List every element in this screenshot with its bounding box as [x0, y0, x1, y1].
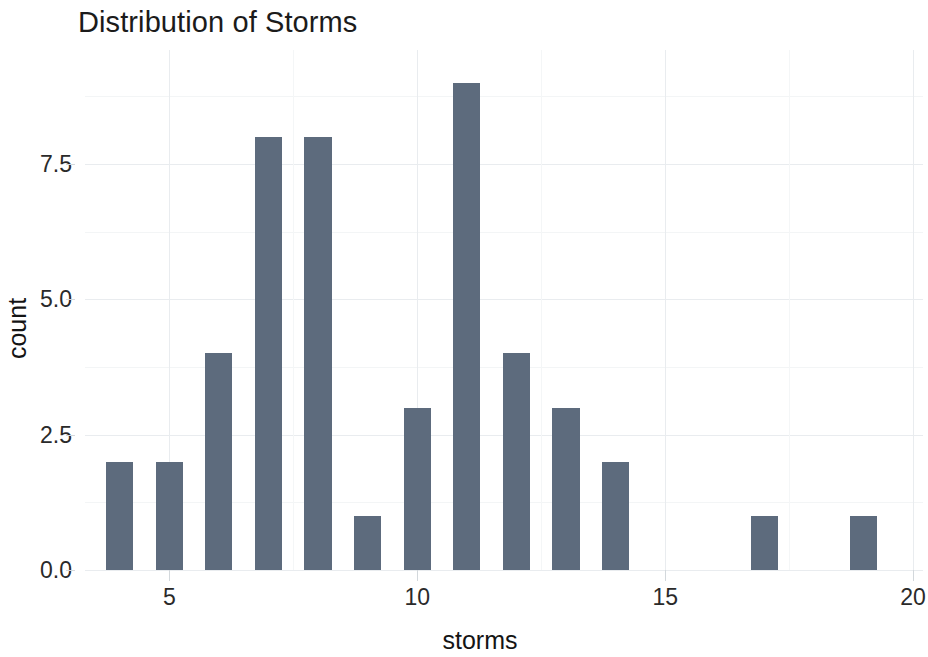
y-axis-tick-mark: [66, 435, 75, 436]
y-axis-tick-label: 5.0: [10, 286, 72, 313]
gridline-major-vertical: [665, 50, 666, 570]
y-axis-tick-label: 0.0: [10, 557, 72, 584]
plot-area: [85, 50, 923, 570]
gridline-major-vertical: [913, 50, 914, 570]
bar: [850, 516, 877, 570]
y-axis-tick-mark: [66, 299, 75, 300]
gridline-minor-vertical: [541, 50, 542, 570]
bar: [304, 137, 331, 570]
bar: [404, 408, 431, 571]
bar: [255, 137, 282, 570]
bar: [354, 516, 381, 570]
x-axis-title: storms: [0, 626, 928, 655]
x-axis-tick-labels: 5101520: [85, 570, 923, 620]
y-axis-tick-label: 7.5: [10, 150, 72, 177]
bar: [552, 408, 579, 571]
bar: [751, 516, 778, 570]
x-axis-tick-label: 5: [163, 584, 176, 611]
gridline-minor-horizontal: [85, 96, 923, 97]
gridline-minor-vertical: [293, 50, 294, 570]
x-axis-title-label: storms: [443, 626, 518, 654]
chart-container: Distribution of Storms count storms 0.02…: [0, 0, 928, 657]
x-axis-tick-mark: [417, 570, 418, 581]
y-axis-tick-mark: [66, 570, 75, 571]
x-axis-tick-mark: [913, 570, 914, 581]
bar: [503, 353, 530, 570]
y-axis-tick-mark: [66, 164, 75, 165]
bar: [106, 462, 133, 570]
x-axis-tick-label: 10: [404, 584, 430, 611]
x-axis-tick-label: 15: [652, 584, 678, 611]
bar: [156, 462, 183, 570]
x-axis-tick-mark: [665, 570, 666, 581]
x-axis-tick-label: 20: [900, 584, 926, 611]
y-axis-tick-labels: 0.02.55.07.5: [0, 50, 72, 570]
gridline-minor-horizontal: [85, 232, 923, 233]
x-axis-tick-mark: [169, 570, 170, 581]
gridline-major-horizontal: [85, 164, 923, 165]
y-axis-tick-label: 2.5: [10, 421, 72, 448]
bar: [602, 462, 629, 570]
gridline-minor-vertical: [789, 50, 790, 570]
gridline-major-horizontal: [85, 299, 923, 300]
chart-title: Distribution of Storms: [78, 6, 357, 39]
bar: [453, 83, 480, 571]
bar: [205, 353, 232, 570]
